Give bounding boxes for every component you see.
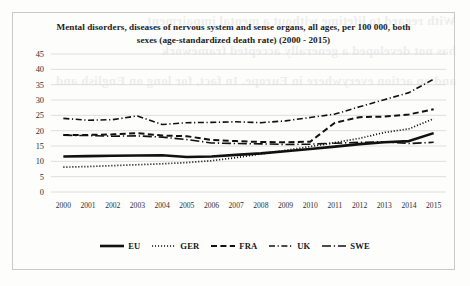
legend-label: FRA — [239, 241, 257, 251]
chart-title: Mental disorders, diseases of nervous sy… — [13, 13, 454, 46]
x-axis-tick-label: 2000 — [56, 201, 71, 210]
legend-label: SWE — [350, 241, 369, 251]
y-axis-tick-label: 40 — [36, 65, 44, 74]
y-axis-tick-label: 0 — [40, 188, 44, 197]
legend-entry-eu[interactable]: EU — [99, 241, 140, 251]
x-axis-tick-label: 2004 — [155, 201, 170, 210]
legend-swatch-swe-icon — [321, 241, 347, 251]
legend-label: UK — [297, 241, 310, 251]
y-axis-tick-label: 25 — [36, 111, 44, 120]
y-axis-tick-label: 10 — [36, 157, 44, 166]
y-axis-tick-label: 20 — [36, 127, 44, 136]
legend-swatch-uk-icon — [268, 241, 294, 251]
chart-legend: EUGERFRAUKSWE — [13, 241, 456, 251]
y-axis-tick-label: 15 — [36, 142, 44, 151]
x-axis-tick-label: 2009 — [278, 201, 293, 210]
x-axis-tick-label: 2001 — [80, 201, 95, 210]
line-chart-svg: 0510152025303540452000200120022003200420… — [13, 46, 456, 226]
legend-label: EU — [128, 241, 140, 251]
x-axis-tick-label: 2005 — [179, 201, 194, 210]
plot-area: 0510152025303540452000200120022003200420… — [13, 46, 456, 206]
legend-entry-fra[interactable]: FRA — [210, 241, 257, 251]
x-axis-tick-label: 2002 — [105, 201, 120, 210]
series-line-uk — [63, 79, 433, 124]
legend-entry-uk[interactable]: UK — [268, 241, 310, 251]
x-axis-tick-label: 2012 — [352, 201, 367, 210]
x-axis-tick-label: 2003 — [130, 201, 145, 210]
legend-swatch-ger-icon — [151, 241, 177, 251]
legend-entry-ger[interactable]: GER — [151, 241, 199, 251]
x-axis-tick-label: 2006 — [204, 201, 219, 210]
y-axis-tick-label: 30 — [36, 96, 44, 105]
x-axis-tick-label: 2008 — [253, 201, 268, 210]
legend-label: GER — [180, 241, 199, 251]
x-axis-tick-label: 2010 — [303, 201, 318, 210]
legend-entry-swe[interactable]: SWE — [321, 241, 369, 251]
chart-figure: Mental disorders, diseases of nervous sy… — [12, 12, 455, 270]
x-axis-tick-label: 2007 — [229, 201, 244, 210]
legend-swatch-eu-icon — [99, 241, 125, 251]
x-axis-tick-label: 2014 — [401, 201, 416, 210]
x-axis-tick-label: 2011 — [327, 201, 342, 210]
legend-swatch-fra-icon — [210, 241, 236, 251]
y-axis-tick-label: 5 — [40, 173, 44, 182]
x-axis-tick-label: 2015 — [426, 201, 441, 210]
series-line-fra — [63, 109, 433, 142]
y-axis-tick-label: 35 — [36, 81, 44, 90]
x-axis-tick-label: 2013 — [377, 201, 392, 210]
y-axis-tick-label: 45 — [36, 50, 44, 59]
